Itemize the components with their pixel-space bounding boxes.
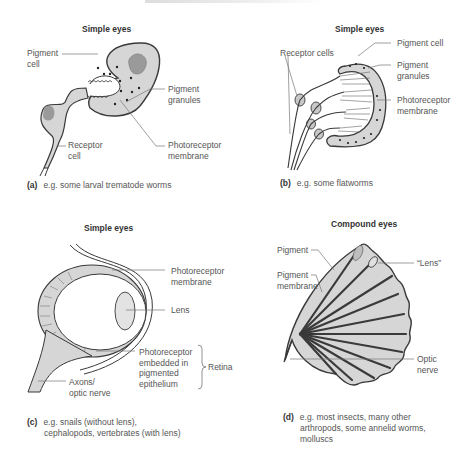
caption-a: (a)e.g. some larval trematode worms [27, 180, 171, 191]
label-line: nerve [417, 365, 438, 376]
caption-d: (d)e.g. most insects, many other arthrop… [283, 412, 426, 445]
label-line: membrane [277, 281, 318, 292]
label-line: Pigment [168, 84, 201, 95]
label-line: Receptor cells [280, 48, 334, 59]
label-line: Retina [208, 362, 233, 373]
caption-text: e.g. some larval trematode worms [43, 180, 171, 190]
label-line: epithelium [139, 379, 192, 390]
caption-letter: (a) [27, 180, 37, 190]
label-line: pigmented [139, 368, 192, 379]
label-line: Photoreceptor [397, 95, 450, 106]
label-pigment-granules: Pigment granules [397, 60, 430, 81]
label-line: Pigment [277, 245, 308, 256]
label-line: Optic [417, 354, 438, 365]
panel-b-diagram [285, 43, 391, 170]
retina-brace [198, 345, 206, 389]
label-line: membrane [168, 151, 221, 162]
panel-d-title: Compound eyes [331, 219, 397, 229]
panel-a-title: Simple eyes [82, 24, 131, 34]
caption-c: (c)e.g. snails (without lens), cephalopo… [27, 417, 181, 439]
caption-text: molluscs [300, 434, 333, 444]
label-photoreceptor-embedded: Photoreceptor embedded in pigmented epit… [139, 347, 192, 389]
label-pigment-cell: Pigment cell [397, 38, 443, 49]
caption-text: e.g. snails (without lens), [43, 417, 137, 427]
caption-text: e.g. some flatworms [297, 178, 373, 188]
label-line: cell [68, 151, 103, 162]
label-line: embedded in [139, 358, 192, 369]
label-receptor-cells: Receptor cells [280, 48, 334, 59]
panel-a-diagram [40, 43, 165, 176]
caption-text: e.g. most insects, many other [300, 412, 411, 422]
label-line: granules [397, 71, 430, 82]
label-axons-optic-nerve: Axons/ optic nerve [69, 377, 111, 398]
label-pigment: Pigment [277, 245, 308, 256]
label-photoreceptor-membrane: Photoreceptor membrane [168, 140, 221, 161]
label-line: Lens [171, 305, 189, 316]
label-photoreceptor-membrane: Photoreceptor membrane [397, 95, 450, 116]
label-receptor-cell: Receptor cell [68, 140, 103, 161]
label-line: cell [27, 59, 58, 70]
label-line: Pigment cell [397, 38, 443, 49]
label-optic-nerve: Optic nerve [417, 354, 438, 375]
label-line: optic nerve [69, 388, 111, 399]
caption-letter: (b) [280, 178, 291, 188]
panel-c-title: Simple eyes [84, 223, 133, 233]
label-retina: Retina [208, 362, 233, 373]
label-line: Pigment [27, 48, 58, 59]
caption-letter: (d) [283, 412, 294, 422]
label-lens: “Lens” [417, 258, 441, 269]
label-line: Pigment [277, 270, 318, 281]
label-line: granules [168, 95, 201, 106]
panel-b-title: Simple eyes [335, 24, 384, 34]
lens-shape [115, 292, 135, 330]
pigment-cup-shape [327, 64, 386, 147]
label-line: Receptor [68, 140, 103, 151]
label-lens: Lens [171, 305, 189, 316]
label-line: Photoreceptor [168, 140, 221, 151]
label-photoreceptor-membrane: Photoreceptor membrane [171, 266, 224, 287]
label-line: Axons/ [69, 377, 111, 388]
caption-text: arthropods, some annelid worms, [300, 423, 426, 433]
label-line: Pigment [397, 60, 430, 71]
caption-b: (b)e.g. some flatworms [280, 178, 373, 189]
label-line: membrane [171, 277, 224, 288]
label-pigment-cell: Pigment cell [27, 48, 58, 69]
label-line: “Lens” [417, 258, 441, 269]
caption-text: cephalopods, vertebrates (with lens) [44, 428, 181, 438]
caption-letter: (c) [27, 417, 37, 427]
label-pigment-membrane: Pigment membrane [277, 270, 318, 291]
label-line: Photoreceptor [139, 347, 192, 358]
label-pigment-granules: Pigment granules [168, 84, 201, 105]
label-line: membrane [397, 106, 450, 117]
panel-d-diagram [284, 244, 414, 385]
label-line: Photoreceptor [171, 266, 224, 277]
